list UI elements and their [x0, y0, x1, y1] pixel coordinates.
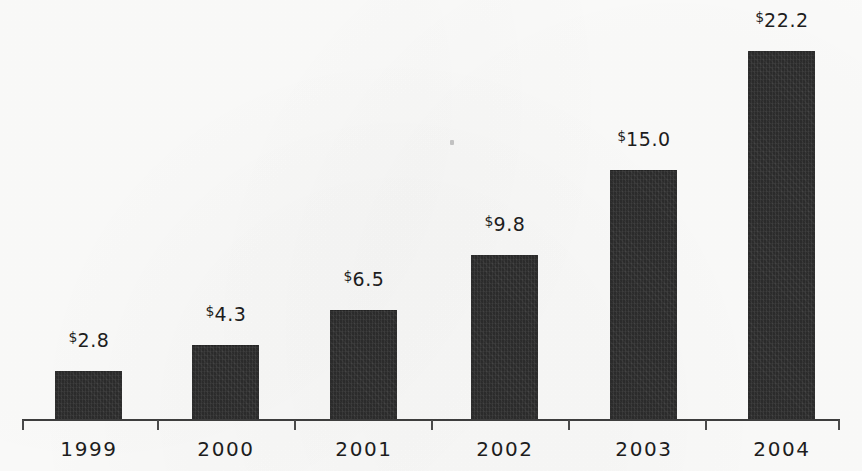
value-label-1999: $2.8: [44, 329, 134, 351]
value-text: 2.8: [77, 329, 109, 351]
x-axis-tick-0: [22, 420, 24, 430]
category-label-2001: 2001: [319, 437, 409, 461]
value-label-2001: $6.5: [319, 268, 409, 290]
bar-2000: [192, 345, 259, 420]
plot-area: $2.8 $4.3 $6.5 $9.8 $15.0 $22.2 1999: [0, 0, 862, 471]
category-label-2002: 2002: [460, 437, 550, 461]
value-label-2003: $15.0: [599, 128, 689, 150]
x-axis-tick-2: [294, 420, 296, 430]
value-label-2002: $9.8: [460, 213, 550, 235]
x-axis-tick-4: [568, 420, 570, 430]
value-text: 4.3: [214, 303, 246, 325]
category-label-2004: 2004: [737, 437, 827, 461]
category-label-2000: 2000: [181, 437, 271, 461]
bar-2001: [330, 310, 397, 420]
bar-2002: [471, 255, 538, 420]
value-text: 6.5: [352, 268, 384, 290]
value-text: 22.2: [764, 9, 809, 31]
currency-symbol: $: [617, 128, 626, 144]
currency-symbol: $: [755, 9, 764, 25]
bar-2003: [610, 170, 677, 420]
x-axis-tick-5: [705, 420, 707, 430]
x-axis-tick-1: [157, 420, 159, 430]
value-text: 9.8: [493, 213, 525, 235]
category-label-2003: 2003: [599, 437, 689, 461]
x-axis-tick-3: [431, 420, 433, 430]
scan-speck-artifact: [450, 140, 454, 145]
bar-chart: $2.8 $4.3 $6.5 $9.8 $15.0 $22.2 1999: [0, 0, 862, 471]
bar-1999: [55, 371, 122, 420]
x-axis-tick-6: [838, 420, 840, 430]
value-label-2000: $4.3: [181, 303, 271, 325]
bar-2004: [748, 51, 815, 420]
value-label-2004: $22.2: [737, 9, 827, 31]
value-text: 15.0: [626, 128, 671, 150]
category-label-1999: 1999: [44, 437, 134, 461]
